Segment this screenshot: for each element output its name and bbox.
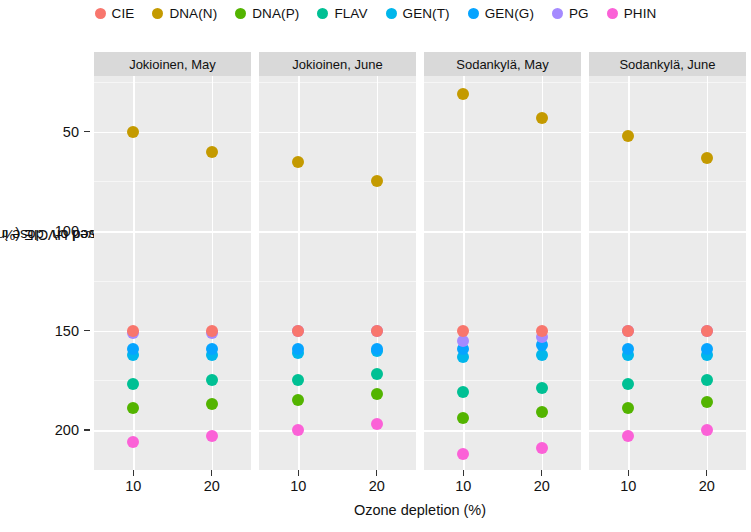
gridline-vertical [298,76,299,470]
y-axis-tick-mark [84,429,90,430]
x-axis-tick-label: 10 [443,478,483,494]
x-axis-label: Ozone depletion (%) [94,502,746,518]
x-axis-tick-mark [133,470,134,476]
data-point [371,175,383,187]
x-axis-tick-mark [541,470,542,476]
gridline-minor [424,82,581,83]
data-point [622,402,634,414]
x-axis-tick: 20 [192,470,232,494]
x-axis-tick-group: 1020 [589,470,746,496]
data-point [701,343,713,355]
x-axis-tick: 10 [278,470,318,494]
data-point [371,368,383,380]
y-axis-tick-label: 200 [55,422,79,438]
data-point [206,430,218,442]
gridline-major [94,331,251,332]
data-point [701,325,713,337]
data-point [536,112,548,124]
gridline-minor [589,281,746,282]
data-point [127,126,139,138]
gridline-major [424,132,581,133]
data-point [701,374,713,386]
data-point [371,418,383,430]
y-axis-ticks: 20015010050 [38,52,90,470]
gridline-major [259,430,416,431]
data-point [127,402,139,414]
data-point [292,424,304,436]
data-point [536,382,548,394]
x-axis-tick-label: 20 [192,478,232,494]
x-axis-tick-mark [298,470,299,476]
facet-panel: Sodankylä, May [424,52,581,470]
data-point [622,130,634,142]
facet-panel-body [424,76,581,470]
x-axis-tick-group: 1020 [424,470,581,496]
data-point [292,325,304,337]
gridline-major [94,430,251,431]
y-axis-tick: 100 [55,223,90,239]
facet-panel: Jokioinen, May [94,52,251,470]
x-axis-tick-label: 20 [522,478,562,494]
facet-panel-body [589,76,746,470]
x-axis-tick: 20 [357,470,397,494]
y-axis-label: Achieved UV dose increase when lamps set… [2,0,38,470]
gridline-minor [424,281,581,282]
data-point [622,325,634,337]
x-axis-tick-mark [463,470,464,476]
gridline-minor [589,181,746,182]
data-point [371,325,383,337]
data-point [622,378,634,390]
chart-plot-area: Achieved UV dose increase when lamps set… [0,0,751,532]
y-axis-tick-mark [84,330,90,331]
gridline-vertical [212,76,213,470]
data-point [127,378,139,390]
data-point [127,325,139,337]
x-axis-tick-group: 1020 [259,470,416,496]
data-point [536,442,548,454]
x-axis-tick-mark [628,470,629,476]
facet-panel: Sodankylä, June [589,52,746,470]
data-point [536,325,548,337]
gridline-vertical [377,76,378,470]
data-point [206,325,218,337]
gridline-major [94,132,251,133]
facet-panel-title: Sodankylä, May [424,52,581,76]
gridline-minor [94,380,251,381]
x-axis-tick-label: 10 [113,478,153,494]
gridline-major [259,132,416,133]
gridline-minor [94,82,251,83]
x-axis-tick: 10 [113,470,153,494]
gridline-vertical [707,76,708,470]
gridline-minor [589,380,746,381]
x-axis-tick-label: 10 [608,478,648,494]
x-axis-tick-mark [706,470,707,476]
gridline-minor [259,380,416,381]
facet-panel-body [259,76,416,470]
facet-panel: Jokioinen, June [259,52,416,470]
x-axis-tick: 20 [687,470,727,494]
x-axis-tick-label: 20 [357,478,397,494]
x-axis-tick: 10 [443,470,483,494]
data-point [292,343,304,355]
x-axis-tick-label: 20 [687,478,727,494]
gridline-major [589,132,746,133]
data-point [292,394,304,406]
y-axis-tick-mark [84,131,90,132]
gridline-minor [259,181,416,182]
gridline-minor [94,181,251,182]
gridline-major [259,331,416,332]
data-point [292,374,304,386]
gridline-minor [424,380,581,381]
data-point [622,343,634,355]
data-point [457,448,469,460]
x-axis-tick: 20 [522,470,562,494]
facet-panel-title: Jokioinen, May [94,52,251,76]
x-axis-ticks: 1020102010201020 [94,470,746,496]
gridline-major [424,430,581,431]
gridline-vertical [463,76,464,470]
data-point [622,430,634,442]
y-axis-tick: 150 [55,323,90,339]
gridline-minor [589,82,746,83]
data-point [371,388,383,400]
gridline-major [589,231,746,232]
